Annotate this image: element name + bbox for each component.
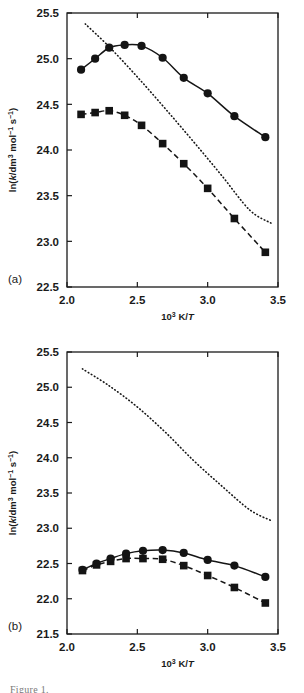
x-axis-title: 103 K/T [161,658,195,669]
data-point-circle [139,547,147,555]
x-axis-title: 103 K/T [161,311,195,322]
data-point-square [159,140,167,148]
y-tick-label: 25.0 [37,53,59,65]
data-point-square [91,109,99,117]
data-point-circle [159,546,167,554]
x-tick-label: 3.5 [270,641,287,653]
data-point-circle [204,89,212,97]
data-point-circle [78,566,86,574]
y-axis-title: ln(k/dm3 mol−1 s−1) [7,451,18,535]
y-tick-label: 23.0 [37,236,59,248]
y-tick-label: 24.0 [37,144,59,156]
data-point-circle [107,554,115,562]
y-tick-label: 25.5 [37,7,60,19]
data-point-circle [77,66,85,74]
y-tick-label: 22.0 [37,593,59,605]
data-point-circle [204,556,212,564]
data-point-square [180,562,188,570]
plot-frame [67,13,278,287]
series-line-circles-solid [81,45,265,138]
data-point-circle [230,112,238,120]
series-line-theory-dotted [82,369,271,521]
data-point-circle [121,41,129,49]
data-point-square [159,555,167,563]
data-point-circle [91,55,99,63]
data-point-circle [180,549,188,557]
y-tick-label: 24.5 [37,417,60,429]
data-point-square [121,111,129,119]
y-tick-label: 25.0 [37,381,59,393]
data-point-square [262,248,270,256]
figure-container: 22.523.023.524.024.525.025.52.02.53.03.5… [0,0,304,693]
data-point-circle [122,550,130,558]
panel-label-a: (a) [8,273,22,285]
data-point-circle [230,562,238,570]
x-tick-label: 2.0 [59,294,75,306]
data-point-square [138,122,146,130]
data-point-square [231,215,239,223]
x-tick-label: 3.0 [200,641,216,653]
x-tick-label: 2.5 [129,641,146,653]
data-point-square [204,572,212,580]
data-point-square [77,111,85,119]
data-point-square [231,584,239,592]
y-axis-title: ln(k/dm3 mol−1 s−1) [7,108,18,192]
data-point-square [139,555,147,563]
caption-fragment: Figure 1. [10,684,294,693]
data-point-circle [159,54,167,62]
data-point-circle [137,42,145,50]
y-tick-label: 24.5 [37,99,60,111]
y-tick-label: 23.5 [37,487,60,499]
x-tick-label: 3.0 [200,294,216,306]
y-tick-label: 24.0 [37,452,59,464]
y-tick-label: 23.0 [37,522,59,534]
data-point-circle [105,44,113,52]
y-tick-label: 22.5 [37,281,60,293]
y-tick-label: 23.5 [37,190,60,202]
x-tick-label: 3.5 [270,294,287,306]
y-tick-label: 21.5 [37,628,60,640]
y-tick-label: 22.5 [37,558,60,570]
data-point-circle [261,573,269,581]
series-line-squares-dashed [81,111,265,253]
data-point-square [180,160,188,168]
series-line-theory-dotted [85,24,271,223]
x-tick-label: 2.5 [129,294,146,306]
plot-panel-b: 21.522.022.523.023.524.024.525.025.52.02… [7,346,287,669]
plot-frame [67,352,278,634]
figure-svg: 22.523.023.524.024.525.025.52.02.53.03.5… [0,0,304,693]
panel-label-b: (b) [8,620,22,632]
data-point-square [262,599,270,607]
x-tick-label: 2.0 [59,641,75,653]
y-tick-label: 25.5 [37,346,60,358]
data-point-square [105,107,113,115]
data-point-circle [92,559,100,567]
data-point-circle [180,74,188,82]
data-point-circle [261,133,269,141]
data-point-square [204,185,212,193]
plot-panel-a: 22.523.023.524.024.525.025.52.02.53.03.5… [7,7,287,322]
